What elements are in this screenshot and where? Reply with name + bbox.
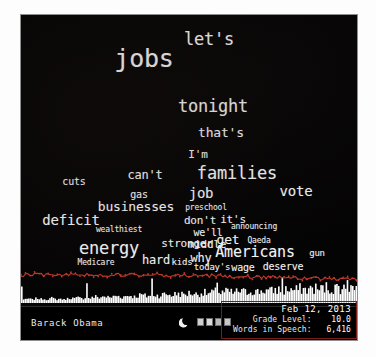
waveform-bar [135,298,137,303]
waveform-bar [326,282,328,303]
waveform-bar [310,286,312,303]
waveform-bar [70,299,72,303]
waveform-bar [76,297,78,303]
waveform-dot [29,275,31,277]
waveform-dot [342,276,344,278]
waveform-bar [211,290,213,303]
waveform-bar [132,298,134,303]
stats-grade-level-row: Grade Level: 10.0 [225,315,351,325]
waveform-bar [28,299,30,303]
waveform-bar [40,298,42,303]
waveform-dot [93,276,95,278]
waveform-dot [188,276,190,278]
waveform-bar [220,294,222,303]
waveform-dot [301,280,303,282]
waveform-bar [95,295,97,303]
waveform-bar [267,289,269,303]
waveform-bar [275,288,277,303]
waveform-bar [194,294,196,303]
waveform-dot [233,277,235,279]
waveform-bar [336,284,338,303]
waveform-dot [79,275,81,277]
word-cloud: let'sjobstonightthat'sI'mfamiliescutscan… [21,15,358,267]
waveform-bar [121,299,123,303]
waveform-dot [75,272,77,274]
waveform-dot [265,278,267,280]
waveform-dot [197,276,199,278]
waveform-dot [206,274,208,276]
waveform-bar [74,298,76,303]
waveform-dot [106,277,108,279]
cloud-word: let's [184,29,234,49]
waveform-bar [113,296,115,303]
waveform-dot [183,272,185,274]
waveform-bar [35,297,37,303]
waveform-bar [125,296,127,303]
waveform-bar [171,297,173,303]
cloud-word: gun [309,248,325,258]
waveform-bar [357,293,358,303]
cloud-word: wealthiest [96,225,142,234]
waveform-bar [178,293,180,303]
waveform-bar [230,289,232,303]
waveform-dot [242,277,244,279]
waveform-bar [107,296,109,303]
waveform-bar [165,294,167,303]
waveform-bar [172,296,174,303]
waveform-bar [97,297,99,303]
waveform-bar [91,297,93,303]
waveform-dot [102,275,104,277]
waveform-bar [216,283,218,303]
waveform-bar [299,283,301,303]
waveform-bar [49,298,51,303]
waveform-dot [115,273,117,275]
waveform-bar [83,299,85,303]
waveform-dot [229,275,231,277]
waveform-dot [356,279,358,281]
waveform-dot [111,273,113,275]
waveform-svg [21,261,358,307]
waveform-bar [54,299,56,303]
waveform-bar [26,299,28,303]
waveform-bar [296,285,298,303]
waveform-bar [155,297,157,303]
waveform-bar [174,292,176,303]
waveform-bar [197,295,199,303]
waveform-dot [174,274,176,276]
waveform-dot [88,275,90,277]
waveform-dot [306,278,308,280]
waveform-bar [93,298,95,303]
waveform-bar [308,288,310,303]
waveform-dot [283,276,285,278]
waveform-bar [190,295,192,303]
waveform-bar [181,292,183,303]
waveform-dot [256,275,258,277]
waveform-bar [60,299,62,303]
waveform-dot [252,279,254,281]
waveform-bar [120,298,122,303]
waveform-dot [134,273,136,275]
cloud-word: families [197,163,277,183]
waveform-bar [266,289,268,303]
waveform-bar [123,296,125,303]
waveform-bar [139,293,141,303]
waveform-dot [215,277,217,279]
waveform-bar [206,295,208,303]
waveform-bar [278,286,280,303]
waveform-bar [51,297,53,303]
waveform-dot [129,273,131,275]
waveform-bar [39,299,41,303]
waveform-bar [21,287,23,304]
waveform-bar [144,293,146,303]
waveform-bar [137,298,139,303]
waveform-dot [179,276,181,278]
waveform-bar [269,287,271,303]
waveform-bar [63,299,65,303]
cloud-word: job [189,185,214,201]
waveform-bar [334,285,336,303]
waveform-bar [32,299,34,303]
waveform-dot [238,277,240,279]
waveform-bar [42,300,44,303]
waveform-bar [183,294,185,303]
waveform-bar [304,288,306,303]
